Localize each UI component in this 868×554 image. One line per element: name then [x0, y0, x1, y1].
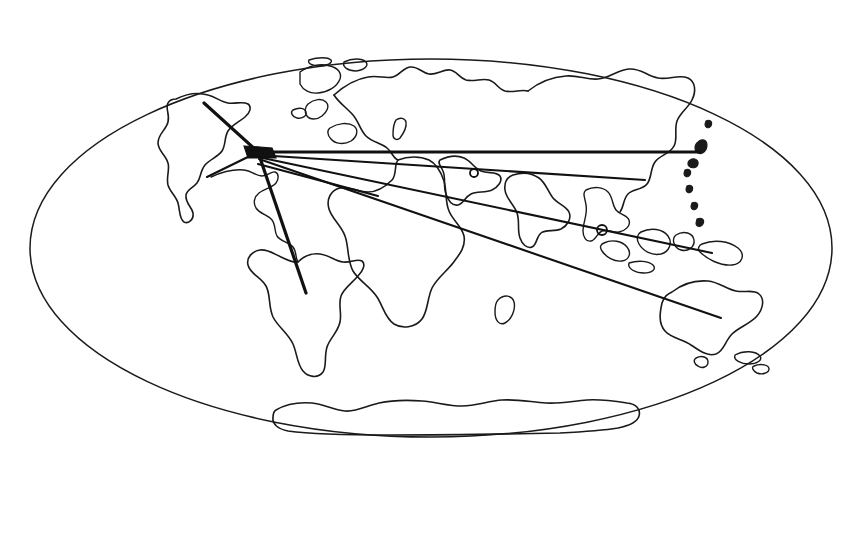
italy [393, 118, 406, 139]
europe-north [334, 67, 528, 95]
central-america [211, 170, 298, 262]
ireland [292, 108, 307, 118]
arctic-island-a [344, 59, 367, 71]
world-map-figure [0, 0, 868, 554]
globe-outline-ellipse [30, 59, 832, 437]
british-isles [305, 100, 328, 119]
waypoint-arabia [470, 169, 478, 177]
asia-north [528, 69, 695, 212]
philippines-dot-b [691, 202, 698, 209]
kamchatka-dot [705, 120, 712, 127]
europe-mediterranean [334, 95, 398, 160]
world-map-canvas [0, 0, 868, 554]
north-america [158, 94, 250, 223]
madagascar [495, 296, 514, 324]
new-zealand-south [753, 365, 769, 374]
philippines-dot-c [696, 218, 704, 226]
route-east-mid [258, 155, 645, 180]
routes-group [204, 103, 721, 318]
hub-center-dot [253, 147, 263, 157]
south-america [248, 250, 364, 377]
new-guinea [699, 241, 743, 265]
tasmania [694, 357, 708, 368]
globe-outline-group [30, 59, 832, 437]
waypoints-group [470, 169, 607, 235]
hub-marker-group [244, 146, 276, 158]
antarctica [273, 400, 640, 435]
iberia [328, 124, 357, 144]
java [629, 261, 655, 273]
greenland [300, 65, 341, 93]
japan-south [688, 159, 698, 168]
australia [660, 281, 763, 355]
taiwan-dot [684, 169, 691, 176]
sumatra [601, 241, 630, 261]
borneo [637, 229, 670, 254]
philippines-dot-a [686, 185, 693, 192]
africa [328, 157, 464, 327]
